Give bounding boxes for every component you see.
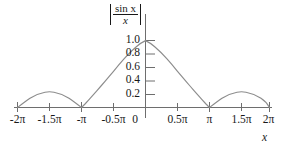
x-tick-label-0.5pi: 0.5π [158,114,197,126]
y-tick-label-0.2: 0.2 [102,88,140,100]
fraction-denominator: x [121,15,130,26]
y-tick-label-1.0: 1.0 [102,34,140,46]
y-tick-label-0.4: 0.4 [102,74,140,86]
abs-bar-right [140,4,141,25]
y-tick-label-0.6: 0.6 [102,61,140,73]
fraction-sinx-over-x: sin x x [113,3,138,26]
sinc-curve [18,41,270,108]
y-axis-label: sin x x [108,3,143,26]
sinc-function-figure: sin x x 0.2 0.4 0.6 0.8 1.0 -2π -1.5π -π… [0,0,281,147]
y-axis-ticks [146,41,155,95]
abs-bar-left [110,4,111,25]
fraction-numerator: sin x [113,3,138,14]
x-tick-label-zero: 0 [129,114,141,126]
x-tick-label-2pi: 2π [254,114,281,126]
x-tick-label-pi: π [196,114,223,126]
x-axis-label: x [262,131,267,143]
y-tick-label-0.8: 0.8 [102,47,140,59]
